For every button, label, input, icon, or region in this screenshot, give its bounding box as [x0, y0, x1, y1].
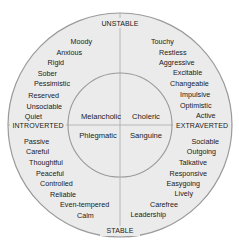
trait-top-left: Unsociable [26, 102, 62, 111]
trait-top-right: Restless [159, 48, 187, 57]
trait-top-left: Moody [70, 37, 92, 46]
trait-bottom-left: Reliable [50, 190, 76, 199]
trait-bottom-right: Talkative [179, 158, 207, 167]
trait-bottom-right: Leadership [130, 210, 166, 219]
trait-bottom-right: Lively [175, 189, 194, 198]
trait-top-right: Touchy [151, 37, 174, 46]
axis-label-extraverted: EXTRAVERTED [176, 122, 228, 129]
trait-bottom-left: Calm [77, 211, 94, 220]
temperament-melancholic: Melancholic [81, 112, 121, 121]
trait-bottom-left: Thoughtful [29, 158, 63, 167]
trait-bottom-left: Peaceful [36, 169, 64, 178]
trait-bottom-right: Carefree [150, 200, 178, 209]
trait-top-left: Anxious [56, 48, 82, 57]
temperament-sanguine: Sanguine [130, 131, 162, 140]
trait-bottom-left: Careful [26, 147, 50, 156]
trait-top-right: Optimistic [180, 101, 212, 110]
trait-top-right: Impulsive [180, 90, 210, 99]
trait-top-left: Reserved [28, 91, 59, 100]
trait-bottom-right: Sociable [191, 137, 219, 146]
trait-bottom-left: Even-tempered [60, 200, 109, 209]
trait-top-right: Active [196, 111, 216, 120]
trait-top-left: Quiet [25, 112, 42, 121]
temperament-choleric: Choleric [132, 112, 160, 121]
trait-top-right: Changeable [170, 79, 209, 88]
trait-top-right: Excitable [173, 68, 202, 77]
trait-bottom-right: Responsive [169, 169, 207, 178]
trait-top-left: Rigid [48, 58, 64, 67]
axis-label-unstable: UNSTABLE [101, 20, 138, 27]
trait-bottom-right: Outgoing [187, 147, 216, 156]
trait-bottom-left: Controlled [40, 179, 73, 188]
temperament-phlegmatic: Phlegmatic [79, 131, 117, 140]
trait-top-right: Aggressive [159, 58, 195, 67]
trait-bottom-right: Easygoing [166, 179, 200, 188]
trait-top-left: Pessimistic [34, 79, 70, 88]
trait-bottom-left: Passive [24, 137, 49, 146]
trait-top-left: Sober [38, 69, 58, 78]
temperament-diagram: UNSTABLE STABLE INTROVERTED EXTRAVERTED … [0, 0, 239, 250]
axis-label-introverted: INTROVERTED [12, 122, 63, 129]
axis-label-stable: STABLE [107, 227, 134, 234]
